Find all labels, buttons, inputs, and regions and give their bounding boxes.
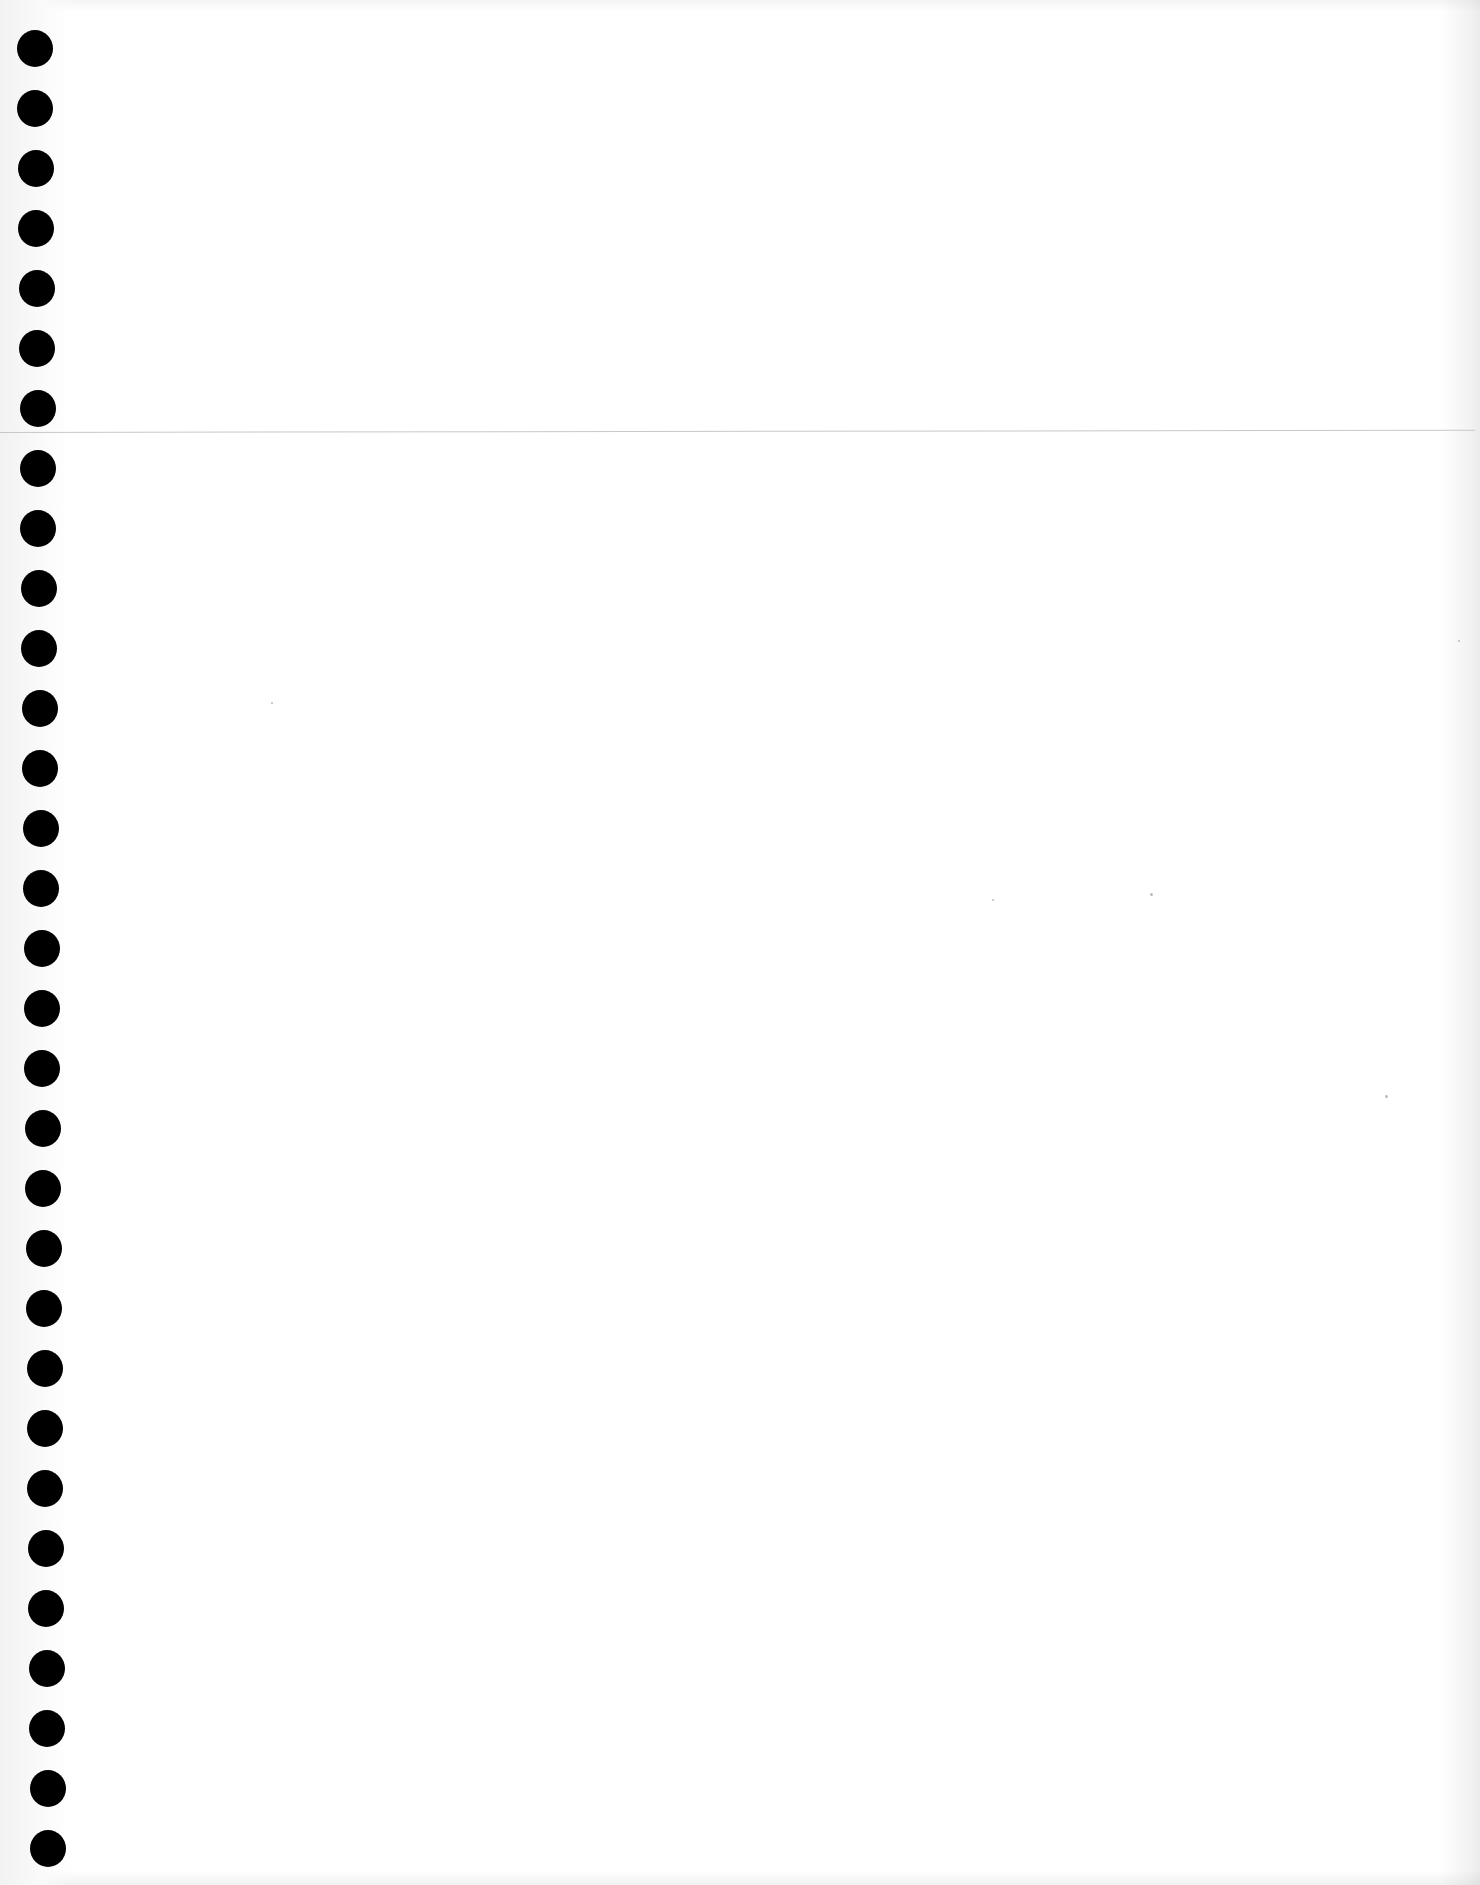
paper-speck <box>1458 640 1460 642</box>
binder-hole <box>22 690 58 727</box>
binder-hole <box>25 1110 61 1147</box>
paper-speck <box>271 702 273 704</box>
binder-hole <box>24 990 60 1027</box>
binder-hole <box>19 330 55 367</box>
binder-hole <box>29 1650 65 1687</box>
binder-hole <box>23 810 59 847</box>
paper-speck <box>1385 1095 1388 1098</box>
binder-hole <box>22 750 58 787</box>
binder-hole <box>19 270 55 307</box>
binder-hole <box>28 1590 64 1627</box>
binder-hole <box>21 570 57 607</box>
binder-hole <box>24 930 60 967</box>
binder-hole <box>20 450 56 487</box>
binder-hole <box>27 1350 63 1387</box>
binder-hole <box>25 1170 61 1207</box>
binder-hole <box>27 1410 63 1447</box>
binder-hole <box>18 150 54 187</box>
binder-hole <box>30 1770 66 1807</box>
binder-hole <box>20 390 56 427</box>
binder-hole <box>17 30 53 67</box>
binder-hole <box>30 1830 66 1867</box>
paper-speck <box>992 899 994 901</box>
binder-hole <box>26 1290 62 1327</box>
binder-hole <box>28 1530 64 1567</box>
notebook-page <box>0 0 1480 1885</box>
binder-hole <box>29 1710 65 1747</box>
binder-hole <box>26 1230 62 1267</box>
binder-hole <box>23 870 59 907</box>
horizontal-rule-line <box>0 430 1475 433</box>
paper-speck <box>1150 893 1153 896</box>
